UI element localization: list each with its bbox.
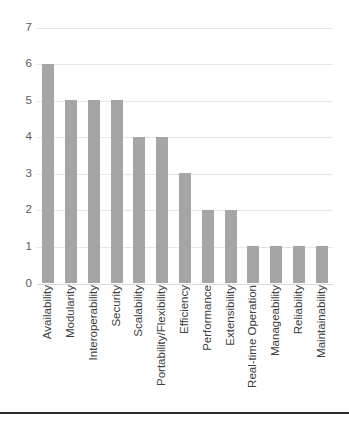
x-axis-label: Efficiency <box>179 285 191 334</box>
y-tick-label-5: 5 <box>4 95 32 107</box>
x-label-slot: Portability/Flexibility <box>151 285 174 400</box>
bar <box>202 210 214 283</box>
x-axis-label: Modularity <box>65 285 77 338</box>
bar-slot <box>287 28 310 284</box>
x-label-slot: Scalability <box>128 285 151 400</box>
x-axis-label: Real-time Operation <box>248 285 260 388</box>
x-axis-label: Portability/Flexibility <box>156 285 168 386</box>
x-label-slot: Efficiency <box>174 285 197 400</box>
x-axis-label: Manageability <box>270 285 282 356</box>
bar <box>293 246 305 283</box>
bar-slot <box>219 28 242 284</box>
x-label-slot: Real-time Operation <box>242 285 265 400</box>
x-axis-label: Interoperability <box>88 285 100 360</box>
x-label-slot: Maintainability <box>310 285 333 400</box>
y-tick-label-7: 7 <box>4 22 32 34</box>
x-axis-label: Scalability <box>134 285 146 337</box>
figure: 76543210 AvailabilityModularityInteroper… <box>0 0 349 428</box>
plot-area <box>37 28 333 284</box>
bar-chart: 76543210 AvailabilityModularityInteroper… <box>0 0 349 400</box>
bar-slot <box>83 28 106 284</box>
bar <box>88 100 100 283</box>
bottom-divider <box>0 412 349 414</box>
x-label-slot: Reliability <box>287 285 310 400</box>
bar <box>111 100 123 283</box>
bar-slot <box>128 28 151 284</box>
caption-clip <box>0 415 349 428</box>
x-axis-category-labels: AvailabilityModularityInteroperabilitySe… <box>37 285 333 400</box>
bar <box>270 246 282 283</box>
bar-slot <box>265 28 288 284</box>
bar <box>156 137 168 283</box>
bar-slot <box>310 28 333 284</box>
x-label-slot: Modularity <box>60 285 83 400</box>
bar-slot <box>105 28 128 284</box>
y-tick-label-0: 0 <box>4 278 32 290</box>
y-tick-label-6: 6 <box>4 58 32 70</box>
bar <box>179 173 191 283</box>
x-axis-label: Maintainability <box>316 285 328 358</box>
bar-slot <box>60 28 83 284</box>
bar-slot <box>37 28 60 284</box>
bar <box>316 246 328 283</box>
bar-series <box>37 28 333 284</box>
bar-slot <box>151 28 174 284</box>
bar-slot <box>242 28 265 284</box>
y-tick-label-2: 2 <box>4 205 32 217</box>
x-label-slot: Extensibility <box>219 285 242 400</box>
x-label-slot: Interoperability <box>83 285 106 400</box>
x-label-slot: Availability <box>37 285 60 400</box>
bar <box>65 100 77 283</box>
bar-slot <box>196 28 219 284</box>
x-axis-label: Availability <box>43 285 55 339</box>
bar <box>42 64 54 283</box>
bar <box>133 137 145 283</box>
x-label-slot: Security <box>105 285 128 400</box>
y-tick-label-4: 4 <box>4 131 32 143</box>
y-tick-label-3: 3 <box>4 168 32 180</box>
y-tick-label-1: 1 <box>4 241 32 253</box>
bar-slot <box>174 28 197 284</box>
bar <box>225 210 237 283</box>
x-axis-label: Performance <box>202 285 214 351</box>
x-label-slot: Manageability <box>265 285 288 400</box>
x-label-slot: Performance <box>196 285 219 400</box>
x-axis-label: Extensibility <box>225 285 237 346</box>
x-axis-label: Reliability <box>293 285 305 334</box>
bar <box>247 246 259 283</box>
x-axis-label: Security <box>111 285 123 327</box>
